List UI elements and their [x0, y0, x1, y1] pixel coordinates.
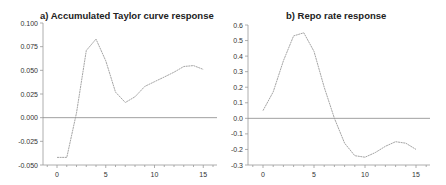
- x-tick-label: 5: [312, 171, 316, 178]
- chart-title: a) Accumulated Taylor curve response: [40, 10, 214, 21]
- series-line: [57, 39, 203, 157]
- y-tick-label: 0.100: [20, 20, 38, 27]
- y-tick-label: -0.3: [231, 162, 243, 169]
- y-tick-label: 0.0: [233, 115, 243, 122]
- x-tick-label: 15: [412, 171, 420, 178]
- y-tick-label: 0.000: [20, 114, 38, 121]
- x-tick-label: 10: [151, 171, 159, 178]
- y-tick-label: 0.2: [233, 84, 243, 91]
- figure: a) Accumulated Taylor curve response0.10…: [0, 0, 446, 185]
- y-tick-label: 0.1: [233, 99, 243, 106]
- y-tick-label: -0.025: [18, 138, 38, 145]
- x-tick-label: 0: [261, 171, 265, 178]
- y-tick-label: -0.050: [18, 162, 38, 169]
- series-line: [263, 33, 416, 157]
- chart-a-taylor-curve: a) Accumulated Taylor curve response0.10…: [18, 10, 217, 178]
- x-tick-label: 15: [199, 171, 207, 178]
- y-tick-label: 0.050: [20, 67, 38, 74]
- y-tick-label: 0.4: [233, 53, 243, 60]
- y-tick-label: 0.3: [233, 68, 243, 75]
- y-tick-label: 0.6: [233, 22, 243, 29]
- chart-b-repo-rate: b) Repo rate response0.60.50.40.30.20.10…: [231, 10, 430, 178]
- x-tick-label: 5: [104, 171, 108, 178]
- y-tick-label: -0.2: [231, 146, 243, 153]
- y-tick-label: 0.025: [20, 91, 38, 98]
- y-tick-label: -0.1: [231, 130, 243, 137]
- y-tick-label: 0.075: [20, 43, 38, 50]
- x-tick-label: 10: [361, 171, 369, 178]
- y-tick-label: 0.5: [233, 37, 243, 44]
- x-tick-label: 0: [55, 171, 59, 178]
- chart-title: b) Repo rate response: [286, 10, 386, 21]
